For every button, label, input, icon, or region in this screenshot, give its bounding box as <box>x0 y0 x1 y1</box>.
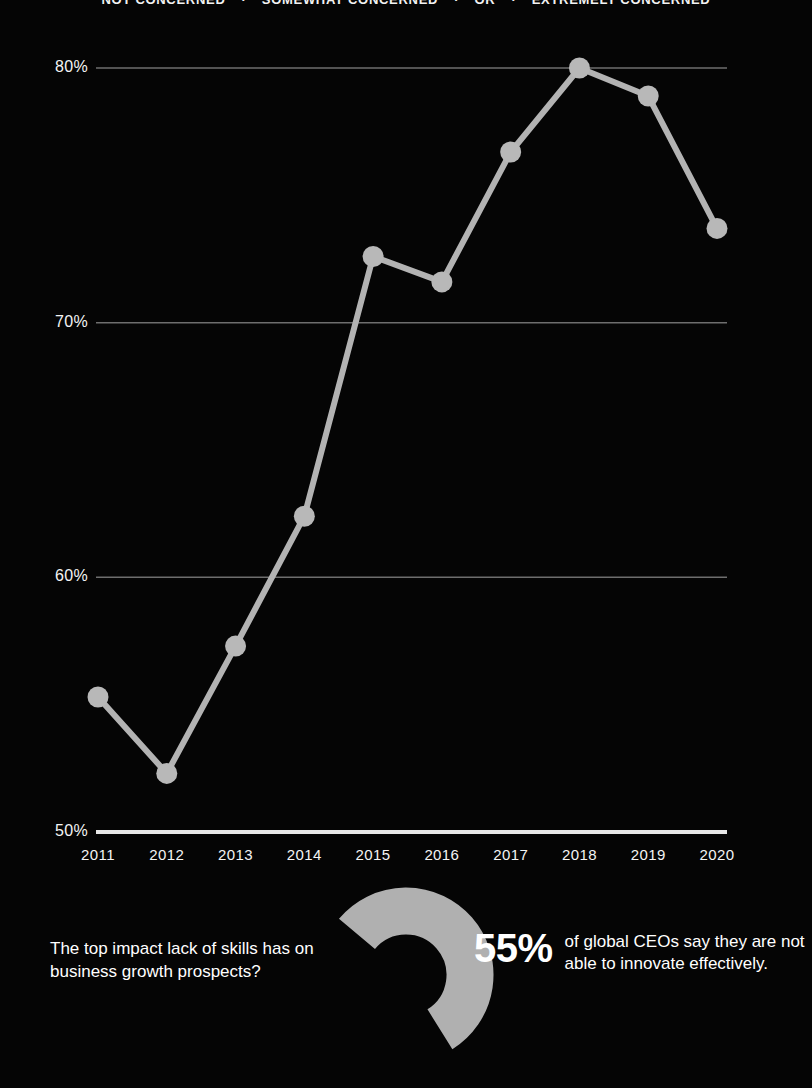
chart-gridlines <box>96 68 727 577</box>
donut-arc-segment <box>357 911 470 1029</box>
x-axis-tick-label: 2018 <box>544 846 614 863</box>
x-axis-tick-label: 2017 <box>476 846 546 863</box>
data-point-marker <box>500 142 521 163</box>
stat-number: 55% <box>474 928 553 968</box>
x-axis-tick-label: 2013 <box>201 846 271 863</box>
stat-callout: 55% of global CEOs say they are not able… <box>474 928 812 975</box>
y-axis-tick-label: 80% <box>30 58 88 76</box>
x-axis-tick-label: 2011 <box>63 846 133 863</box>
data-point-marker <box>156 763 177 784</box>
data-point-marker <box>431 271 452 292</box>
series-markers <box>88 58 728 784</box>
stat-description: of global CEOs say they are not able to … <box>565 928 812 975</box>
footer-section: The top impact lack of skills has on bus… <box>0 880 812 1088</box>
line-chart: 50%60%70%80% 201120122013201420152016201… <box>0 0 812 880</box>
series-line-extremely-concerned <box>98 68 717 773</box>
x-axis-tick-label: 2019 <box>613 846 683 863</box>
data-point-marker <box>294 506 315 527</box>
y-axis-tick-label: 70% <box>30 313 88 331</box>
line-chart-canvas <box>0 0 812 880</box>
data-point-marker <box>363 246 384 267</box>
x-axis-tick-label: 2014 <box>269 846 339 863</box>
data-point-marker <box>707 218 728 239</box>
data-point-marker <box>88 687 109 708</box>
donut-chart-canvas <box>318 862 494 1088</box>
footer-question: The top impact lack of skills has on bus… <box>50 938 325 984</box>
data-point-marker <box>638 86 659 107</box>
y-axis-tick-label: 50% <box>30 822 88 840</box>
x-axis-tick-label: 2016 <box>407 846 477 863</box>
x-axis-tick-label: 2020 <box>682 846 752 863</box>
y-axis-tick-label: 60% <box>30 567 88 585</box>
infographic-root: NOT CONCERNED · SOMEWHAT CONCERNED · OR … <box>0 0 812 1088</box>
data-point-marker <box>569 58 590 79</box>
x-axis-tick-label: 2015 <box>338 846 408 863</box>
donut-chart <box>318 862 494 1088</box>
data-point-marker <box>225 636 246 657</box>
x-axis-tick-label: 2012 <box>132 846 202 863</box>
